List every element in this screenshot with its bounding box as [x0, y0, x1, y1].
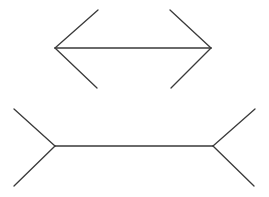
outward-fins-fin-0	[14, 109, 55, 146]
muller-lyer-diagram	[0, 0, 269, 197]
outward-fins-fin-2	[213, 109, 255, 146]
inward-arrowheads-fin-0	[55, 10, 98, 48]
outward-fins-fin-3	[213, 146, 254, 186]
inward-arrowheads-fin-2	[170, 10, 211, 48]
inward-arrowheads-fin-3	[171, 48, 211, 88]
inward-arrowheads-fin-1	[55, 48, 97, 88]
figure-top-arrowheads	[55, 10, 211, 88]
outward-fins-fin-1	[14, 146, 55, 186]
figure-bottom-fins	[14, 109, 255, 186]
